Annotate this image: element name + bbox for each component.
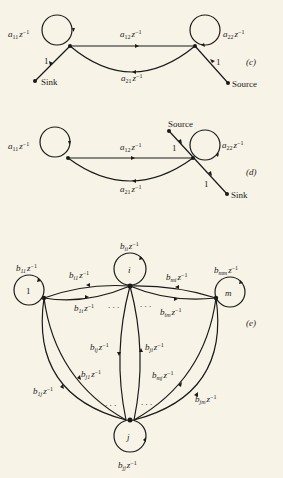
arrow-icon [131,156,135,160]
figure-tag-d: (d) [246,167,257,177]
ellipsis: . . . [141,397,152,407]
edge-a21 [70,46,195,72]
label-a22: a22z−1 [222,140,243,151]
label-b1j: b1jz−1 [33,386,53,397]
node-j-label: j [126,432,130,442]
edge-bij [120,286,130,420]
label-bij: bijz−1 [90,342,109,353]
self-loop-a22 [190,15,220,45]
node-1 [68,44,72,48]
junction-i [128,284,133,289]
label-a11: a11z−1 [8,29,29,40]
label-bj1: bj1z−1 [81,369,101,380]
node-2 [191,156,195,160]
ellipsis: . . . [108,300,119,310]
label-b1i: b1iz−1 [74,303,94,314]
arrow-icon [210,59,215,63]
source-node [167,129,171,133]
label-a21: a21z−1 [121,73,142,84]
label-bim: bimz−1 [160,307,181,318]
figure-e: . . . . . . . . . . . . 1 i m j b11z−1 b… [14,241,256,471]
label-source: Source [168,119,193,129]
label-sink-gain: 1 [44,56,49,66]
label-bmm: bmmz−1 [214,265,238,276]
node-i-label: i [128,265,131,275]
node-1 [66,156,70,160]
figure-c: a11z−1 a22z−1 a12z−1 a21z−1 1 1 Sink Sou… [8,15,257,89]
node-j-circle [114,420,146,452]
label-sink-gain: 1 [204,179,209,189]
label-bmj: bmjz−1 [152,370,173,381]
edge-source-sink [169,131,227,194]
label-sink: Sink [231,190,248,200]
label-source-gain: 1 [172,143,177,153]
ellipsis: . . . [105,398,116,408]
arrow-icon [132,179,136,183]
edge-from-source [195,46,228,83]
junction-m [214,296,218,300]
figure-tag-c: (c) [246,57,256,67]
ellipsis: . . . [140,299,151,309]
arrow-icon [86,283,90,287]
label-a12: a12z−1 [120,142,141,153]
edge-a21 [68,158,193,181]
label-source-gain: 1 [216,57,221,67]
signal-flow-graphs: a11z−1 a22z−1 a12z−1 a21z−1 1 1 Sink Sou… [0,0,283,478]
label-bji: bjiz−1 [145,342,164,353]
label-a12: a12z−1 [120,29,141,40]
edge-bji [130,286,140,420]
self-loop-a11 [40,127,70,157]
label-sink: Sink [41,77,58,87]
arrow-icon [201,43,205,47]
node-m-label: m [225,288,232,298]
figure-tag-e: (e) [246,318,256,328]
label-bjm: bjmz−1 [195,394,216,405]
sink-node [33,79,37,83]
label-source: Source [232,79,257,89]
label-a21: a21z−1 [120,184,141,195]
label-bmi: bmiz−1 [166,272,187,283]
node-2 [193,44,197,48]
junction-j [128,418,133,423]
edge-bmi [130,286,216,298]
self-loop-a11 [42,15,72,45]
label-a11: a11z−1 [8,141,29,152]
sink-node [225,192,229,196]
label-a22: a22z−1 [223,29,244,40]
node-1-label: 1 [26,286,31,296]
label-bi1: bi1z−1 [69,270,89,281]
self-loop-a22 [190,130,220,160]
label-b11: b11z−1 [16,263,37,274]
arrow-icon [135,44,139,48]
source-node [226,81,230,85]
junction-1 [42,296,46,300]
label-bjj: bjjz−1 [118,460,137,471]
label-bii: biiz−1 [120,241,139,252]
figure-d: a11z−1 a22z−1 a12z−1 a21z−1 1 1 Source S… [8,119,257,200]
